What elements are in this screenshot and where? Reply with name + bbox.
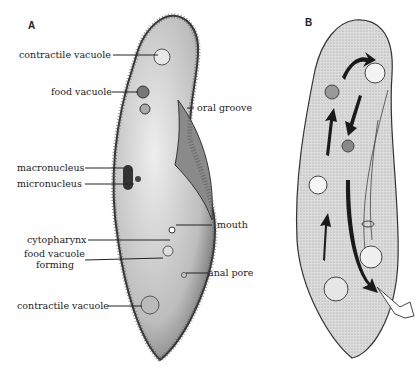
label-anal-pore: anal pore: [208, 268, 253, 278]
label-micronucleus: micronucleus: [17, 179, 82, 189]
label-food-vacuole-forming-line2: forming: [36, 260, 74, 270]
label-mouth: mouth: [217, 220, 248, 230]
panel-b-label: B: [305, 17, 312, 28]
label-oral-groove: oral groove: [197, 103, 252, 113]
label-macronucleus: macronucleus: [17, 163, 84, 173]
paramecium-b-illustration: [296, 20, 414, 358]
label-cytopharynx: cytopharynx: [27, 235, 86, 245]
label-food-vacuole: food vacuole: [51, 87, 112, 97]
panel-a-label: A: [28, 20, 35, 31]
label-food-vacuole-forming-line1: food vacuole: [24, 249, 85, 259]
label-contractile-vacuole-bottom: contractile vacuole: [17, 301, 109, 311]
label-contractile-vacuole-top: contractile vacuole: [19, 50, 111, 60]
